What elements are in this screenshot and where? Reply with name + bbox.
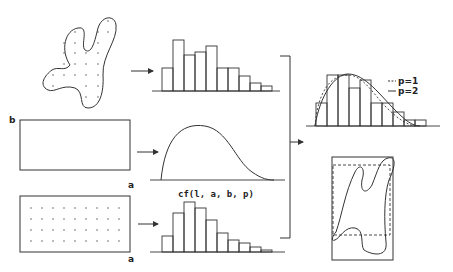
rectangle-with-points: a — [20, 196, 134, 264]
legend-p2: p=2 — [398, 86, 418, 96]
legend-p1: p=1 — [398, 76, 418, 86]
irregular-region-with-points — [43, 18, 116, 108]
histogram-top — [152, 40, 280, 91]
cf-curve: cf(l, a, b, p) — [150, 125, 285, 199]
rectangle-a-by-b: b a — [9, 115, 134, 190]
curve-caption: cf(l, a, b, p) — [178, 189, 254, 199]
label-a-bottom: a — [128, 254, 134, 264]
region-bounding-box — [332, 157, 394, 260]
histogram-result-with-fits: p=1 p=2 — [306, 74, 440, 126]
combine-bracket — [280, 56, 303, 238]
histogram-bottom — [150, 202, 285, 252]
label-b: b — [9, 115, 16, 125]
diagram-canvas: b a cf(l, a, b, p) a — [0, 0, 453, 272]
label-a-top: a — [128, 180, 134, 190]
